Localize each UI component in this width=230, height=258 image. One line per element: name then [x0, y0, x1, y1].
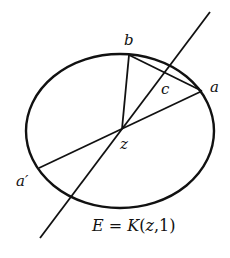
- segment-zb: [122, 55, 129, 129]
- label-a-prime: a′: [16, 172, 29, 190]
- label-a: a: [210, 78, 219, 96]
- label-c: c: [161, 80, 170, 98]
- equation-label: E = K(z,1): [91, 216, 175, 235]
- geometry-diagram: b a c z a′ E = K(z,1): [0, 0, 230, 258]
- label-b: b: [124, 31, 134, 49]
- label-z: z: [119, 135, 128, 153]
